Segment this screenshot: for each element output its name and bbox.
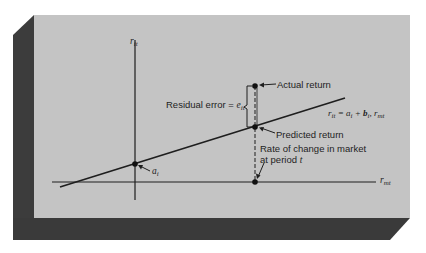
y-axis-sub: it (134, 40, 138, 48)
market-model-diagram: rit rmt Actual return Residual error = e… (0, 0, 426, 253)
x-axis-label: rmt (380, 175, 391, 189)
residual-prefix: Residual error = (166, 99, 237, 110)
actual-return-label: Actual return (277, 79, 331, 90)
residual-error-label: Residual error = eit (166, 99, 245, 114)
intercept-sub: i (157, 170, 159, 178)
predicted-point (252, 124, 258, 130)
market-rate-label-line1: Rate of change in market (260, 143, 366, 154)
panel-left-side (13, 15, 34, 218)
intercept-point (132, 161, 138, 167)
panel-bottom-side (13, 218, 410, 240)
eq-rm-sub: mt (377, 112, 384, 120)
diagram-canvas (0, 0, 426, 253)
eq-plus: + (352, 108, 363, 118)
actual-point (252, 83, 258, 89)
y-axis-label: rit (130, 36, 138, 50)
predicted-return-label: Predicted return (276, 129, 344, 140)
residual-sub: it (241, 104, 245, 112)
market-line2-var: t (300, 155, 303, 165)
market-line2-prefix: at period (260, 154, 300, 165)
market-point (252, 179, 258, 185)
eq-equals: = (335, 108, 346, 118)
x-axis-sub: mt (384, 179, 391, 187)
intercept-label: ai (152, 166, 159, 180)
market-rate-label-line2: at period t (260, 154, 302, 166)
regression-equation: rit = ai + bi, rmt (328, 108, 384, 122)
